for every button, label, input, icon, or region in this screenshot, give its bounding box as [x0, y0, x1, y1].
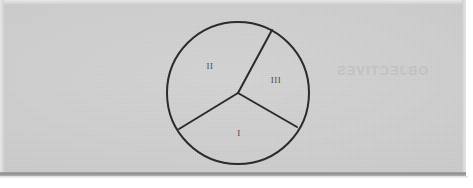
- radius-upper-right: [238, 30, 272, 93]
- radius-lower-left: [179, 93, 238, 129]
- paper-edge-left: [0, 0, 4, 173]
- paper-edge-top: [0, 0, 466, 4]
- circle-sector-svg: [160, 12, 320, 172]
- circle-sector-diagram: [160, 12, 320, 172]
- sector-label-1: I: [237, 129, 241, 138]
- bleed-through-heading: OBJECTIVES: [336, 63, 428, 78]
- sector-label-3: III: [271, 76, 282, 85]
- scan-bottom-band-soft: [0, 176, 468, 178]
- sector-label-2: II: [207, 62, 214, 71]
- scanned-page: OBJECTIVES I II III: [0, 0, 473, 188]
- radius-lower-right: [238, 93, 297, 127]
- paper-edge-right: [462, 0, 466, 173]
